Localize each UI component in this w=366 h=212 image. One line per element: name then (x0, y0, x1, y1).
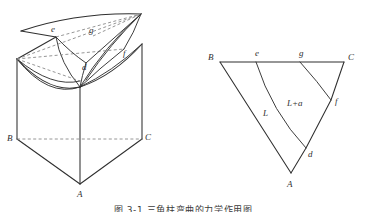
prism-base-edge-AC (80, 139, 142, 184)
left-label-d: d (82, 62, 87, 72)
fold-f-to-apex (124, 14, 141, 49)
figure-root: .solid{fill:none;stroke:#2f2f2f;stroke-w… (0, 0, 366, 212)
left-label-f: f (123, 48, 127, 58)
left-label-g: g (89, 25, 94, 35)
right-triangle-group: B C e g f d A L L+a (208, 48, 355, 189)
figure-caption: 图 3-1 三角柱弯曲的力学作用图 (0, 204, 366, 212)
prism-base-edge-BA (17, 139, 80, 184)
right-label-C: C (348, 52, 355, 62)
right-label-f: f (335, 96, 339, 106)
left-label-A: A (76, 189, 83, 199)
fold-d-to-e (56, 37, 86, 63)
triangle-edge-BA (220, 62, 291, 173)
left-label-e: e (51, 24, 55, 34)
fold-line-g-to-f (300, 62, 331, 100)
right-label-L-plus-a: L+a (286, 98, 303, 108)
figure-canvas: .solid{fill:none;stroke:#2f2f2f;stroke-w… (0, 0, 366, 212)
triangle-edge-CA (291, 62, 344, 173)
left-label-C: C (145, 132, 152, 142)
warped-surface-curve-e-front (56, 37, 80, 87)
right-label-d: d (308, 149, 313, 159)
left-prism-group: B C A e g d f (7, 14, 152, 199)
right-label-e: e (255, 48, 259, 58)
under-sheet-left-curve-2 (17, 59, 80, 82)
left-label-B: B (7, 133, 13, 143)
right-label-B: B (208, 52, 214, 62)
right-label-g: g (299, 48, 304, 58)
right-label-A: A (286, 179, 293, 189)
right-label-L: L (262, 108, 268, 118)
